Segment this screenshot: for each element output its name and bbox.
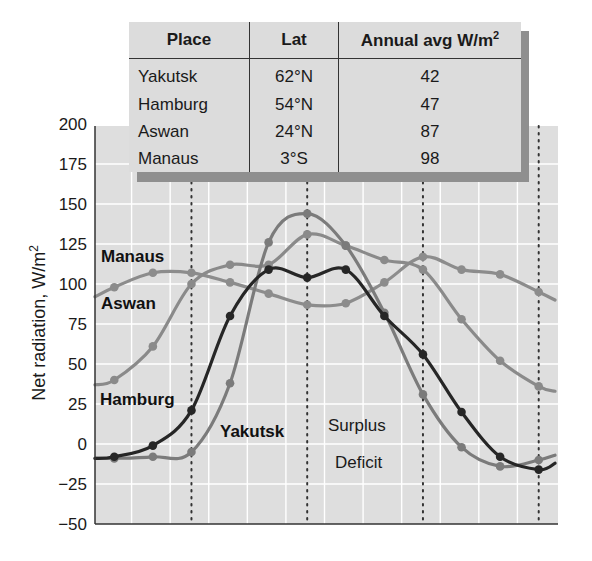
cell-lat: 54°N <box>250 91 339 118</box>
data-point-marker <box>303 273 312 282</box>
cell-annual-avg: 87 <box>339 118 522 145</box>
y-tick-label: 125 <box>59 235 87 254</box>
cell-place: Yakutsk <box>129 59 250 91</box>
y-tick-label: 100 <box>59 275 87 294</box>
data-point-marker <box>457 408 466 417</box>
data-point-marker <box>264 265 273 274</box>
data-point-marker <box>341 299 350 308</box>
data-point-marker <box>380 312 389 321</box>
label-manaus: Manaus <box>101 247 164 266</box>
data-point-marker <box>457 265 466 274</box>
data-point-marker <box>187 448 196 457</box>
data-point-marker <box>534 465 543 474</box>
data-point-marker <box>457 443 466 452</box>
data-point-marker <box>187 406 196 415</box>
data-point-marker <box>303 209 312 218</box>
data-point-marker <box>534 288 543 297</box>
data-point-marker <box>419 265 428 274</box>
header-lat: Lat <box>250 22 339 59</box>
data-point-marker <box>419 390 428 399</box>
cell-lat: 3°S <box>250 145 339 172</box>
table-row: Hamburg 54°N 47 <box>129 91 521 118</box>
data-point-marker <box>187 280 196 289</box>
data-point-marker <box>496 462 505 471</box>
cell-place: Aswan <box>129 118 250 145</box>
cell-lat: 62°N <box>250 59 339 91</box>
data-point-marker <box>110 453 119 462</box>
data-point-marker <box>149 453 158 462</box>
y-tick-label: 175 <box>59 155 87 174</box>
y-tick-label: 25 <box>68 395 87 414</box>
cell-annual-avg: 47 <box>339 91 522 118</box>
data-point-marker <box>303 301 312 310</box>
data-point-marker <box>496 357 505 366</box>
data-point-marker <box>380 256 389 265</box>
data-point-marker <box>226 312 235 321</box>
data-point-marker <box>341 265 350 274</box>
data-point-marker <box>419 350 428 359</box>
data-point-marker <box>264 238 273 247</box>
label-hamburg: Hamburg <box>100 390 175 409</box>
data-point-marker <box>534 382 543 391</box>
table-row: Manaus 3°S 98 <box>129 145 521 172</box>
cell-annual-avg: 42 <box>339 59 522 91</box>
data-point-marker <box>264 289 273 298</box>
data-point-marker <box>149 269 158 278</box>
y-tick-label: −25 <box>58 475 87 494</box>
data-point-marker <box>419 252 428 261</box>
cell-lat: 24°N <box>250 118 339 145</box>
y-tick-label: −50 <box>58 515 87 534</box>
y-tick-label: 200 <box>59 115 87 134</box>
data-point-marker <box>380 278 389 287</box>
data-point-marker <box>187 269 196 278</box>
data-point-marker <box>226 278 235 287</box>
label-surplus: Surplus <box>328 416 386 435</box>
table-row: Aswan 24°N 87 <box>129 118 521 145</box>
data-point-marker <box>496 453 505 462</box>
data-point-marker <box>110 376 119 385</box>
data-point-marker <box>534 456 543 465</box>
label-deficit: Deficit <box>335 453 383 472</box>
y-tick-label: 150 <box>59 195 87 214</box>
data-point-marker <box>457 315 466 324</box>
header-annual-avg: Annual avg W/m2 <box>339 22 522 59</box>
data-point-marker <box>149 342 158 351</box>
table-header-row: Place Lat Annual avg W/m2 <box>129 22 521 59</box>
y-tick-label: 0 <box>78 435 87 454</box>
station-table: Place Lat Annual avg W/m2 Yakutsk 62°N 4… <box>129 22 521 172</box>
y-axis-label: Net radiation, W/m2 <box>27 245 49 401</box>
data-point-marker <box>110 283 119 292</box>
label-aswan: Aswan <box>101 294 156 313</box>
y-tick-label: 50 <box>68 355 87 374</box>
cell-annual-avg: 98 <box>339 145 522 172</box>
data-point-marker <box>226 379 235 388</box>
data-point-marker <box>303 230 312 239</box>
cell-place: Hamburg <box>129 91 250 118</box>
data-point-marker <box>149 441 158 450</box>
y-tick-label: 75 <box>68 315 87 334</box>
y-tick-labels: 2001751501251007550250−25−50 <box>58 115 87 534</box>
data-point-marker <box>226 261 235 270</box>
cell-place: Manaus <box>129 145 250 172</box>
table-row: Yakutsk 62°N 42 <box>129 59 521 91</box>
data-point-marker <box>341 241 350 250</box>
data-point-marker <box>496 270 505 279</box>
header-place: Place <box>129 22 250 59</box>
label-yakutsk: Yakutsk <box>220 422 285 441</box>
